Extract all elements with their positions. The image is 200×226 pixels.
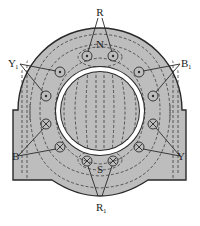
label-R: R xyxy=(96,6,104,18)
label-B1: B 1 xyxy=(181,57,192,71)
svg-text:1: 1 xyxy=(188,63,192,71)
svg-text:1: 1 xyxy=(15,63,19,71)
label-B: B xyxy=(12,150,19,162)
label-Y: Y xyxy=(177,150,185,162)
label-R1: R 1 xyxy=(96,201,107,215)
svg-text:1: 1 xyxy=(103,207,107,215)
pole-north-label: N xyxy=(96,38,104,50)
stator-field-diagram: N S xyxy=(0,0,200,226)
label-Y1: Y 1 xyxy=(8,57,19,71)
pole-south-label: S xyxy=(97,163,103,175)
